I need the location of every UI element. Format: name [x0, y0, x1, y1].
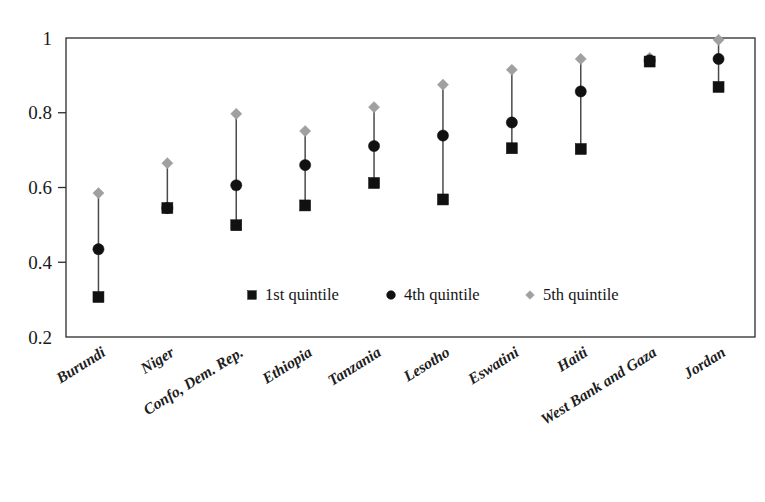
square-marker-icon — [248, 291, 257, 300]
circle-marker-icon — [437, 130, 448, 141]
square-marker-icon — [231, 220, 242, 231]
diamond-marker-icon — [713, 34, 724, 45]
diamond-marker-icon — [526, 291, 535, 300]
diamond-marker-icon — [575, 53, 586, 64]
y-axis-tick-label: 0.4 — [28, 252, 52, 273]
diamond-marker-icon — [437, 79, 448, 90]
legend-item-label: 1st quintile — [265, 285, 339, 304]
circle-marker-icon — [93, 244, 104, 255]
circle-marker-icon — [162, 202, 173, 213]
x-axis-category-label: West Bank and Gaza — [538, 343, 660, 428]
y-axis-tick-label: 0.8 — [28, 102, 52, 123]
x-axis-category-label: Niger — [136, 343, 177, 378]
diamond-marker-icon — [506, 64, 517, 75]
x-axis-category-label: Tanzania — [325, 343, 384, 389]
circle-marker-icon — [575, 86, 586, 97]
diamond-marker-icon — [231, 108, 242, 119]
diamond-marker-icon — [300, 125, 311, 136]
square-marker-icon — [713, 81, 724, 92]
y-axis: 0.20.40.60.81 — [28, 28, 66, 348]
square-marker-icon — [575, 144, 586, 155]
category-column — [437, 79, 448, 205]
square-marker-icon — [437, 194, 448, 205]
circle-marker-icon — [644, 55, 655, 66]
y-axis-tick-label: 0.2 — [28, 327, 52, 348]
category-column — [368, 102, 379, 189]
diamond-marker-icon — [93, 188, 104, 199]
chart-canvas: 0.20.40.60.81 BurundiNigerConfo, Dem. Re… — [0, 0, 765, 502]
x-axis-category-label: Eswatini — [464, 343, 522, 388]
x-axis-category-label: Haiti — [553, 343, 591, 376]
x-axis-category-labels: BurundiNigerConfo, Dem. Rep.EthiopiaTanz… — [52, 343, 728, 428]
x-axis-category-label: Burundi — [52, 343, 108, 387]
square-marker-icon — [506, 143, 517, 154]
circle-marker-icon — [387, 291, 396, 300]
circle-marker-icon — [231, 180, 242, 191]
category-column — [644, 52, 655, 67]
y-axis-tick-label: 1 — [43, 28, 53, 49]
square-marker-icon — [369, 178, 380, 189]
x-axis-category-label: Ethiopia — [258, 343, 315, 387]
category-column — [162, 158, 173, 214]
legend-item: 5th quintile — [526, 285, 619, 304]
diamond-marker-icon — [368, 102, 379, 113]
legend-item: 4th quintile — [387, 285, 480, 304]
legend-item-label: 5th quintile — [543, 285, 619, 304]
circle-marker-icon — [713, 53, 724, 64]
chart-legend: 1st quintile4th quintile5th quintile — [248, 285, 619, 304]
category-column — [506, 64, 517, 154]
x-axis-category-label: Jordan — [680, 343, 729, 382]
y-axis-tick-label: 0.6 — [28, 177, 52, 198]
square-marker-icon — [300, 200, 311, 211]
data-series-group — [93, 34, 724, 302]
legend-item-label: 4th quintile — [404, 285, 480, 304]
legend-item: 1st quintile — [248, 285, 339, 304]
category-column — [300, 125, 311, 210]
category-column — [231, 108, 242, 230]
category-column — [575, 53, 586, 154]
quintile-range-chart: 0.20.40.60.81 BurundiNigerConfo, Dem. Re… — [0, 0, 765, 502]
circle-marker-icon — [506, 117, 517, 128]
category-column — [713, 34, 724, 92]
category-column — [93, 188, 104, 303]
square-marker-icon — [93, 292, 104, 303]
circle-marker-icon — [368, 140, 379, 151]
diamond-marker-icon — [162, 158, 173, 169]
circle-marker-icon — [300, 159, 311, 170]
x-axis-category-label: Lesotho — [400, 343, 453, 385]
